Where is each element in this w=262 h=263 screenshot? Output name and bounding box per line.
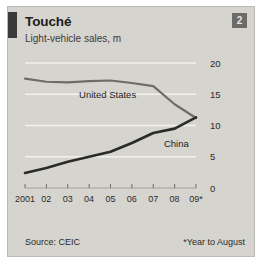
y-axis-labels: 05101520 <box>210 58 221 194</box>
y-axis-tick-label: 15 <box>210 89 221 100</box>
chart-card: 2 Touché Light-vehicle sales, m 05101520… <box>7 6 255 257</box>
line-chart-svg: 05101520 20010203040506070809* United St… <box>8 51 254 226</box>
x-axis-tick-label: 02 <box>41 194 51 204</box>
x-axis-labels: 20010203040506070809* <box>15 194 203 204</box>
y-axis-tick-label: 10 <box>210 120 221 131</box>
source-label: Source: CEIC <box>25 237 80 247</box>
x-axis-tick-label: 07 <box>148 194 158 204</box>
series-inline-labels: United StatesChina <box>79 89 189 149</box>
plot-area: 05101520 20010203040506070809* United St… <box>8 51 254 226</box>
x-axis-tick-label: 06 <box>127 194 137 204</box>
series-label-china: China <box>164 138 190 149</box>
y-axis-tick-label: 5 <box>210 151 215 162</box>
badge-number: 2 <box>232 13 247 28</box>
y-axis-tick-label: 20 <box>210 58 221 69</box>
footnote-label: *Year to August <box>183 237 245 247</box>
x-axis-tick-label: 09* <box>189 194 203 204</box>
x-axis-tick-label: 2001 <box>15 194 35 204</box>
chart-title: Touché <box>25 14 71 29</box>
y-axis-tick-label: 0 <box>210 183 215 194</box>
x-axis-tick-label: 04 <box>84 194 94 204</box>
x-axis-tick-label: 08 <box>170 194 180 204</box>
series-label-united-states: United States <box>79 89 136 100</box>
chart-subtitle: Light-vehicle sales, m <box>25 33 121 44</box>
chart-footer: Source: CEIC *Year to August <box>8 237 254 249</box>
x-axis-tick-label: 05 <box>105 194 115 204</box>
x-axis-tick-label: 03 <box>63 194 73 204</box>
rule-mark <box>8 12 17 38</box>
